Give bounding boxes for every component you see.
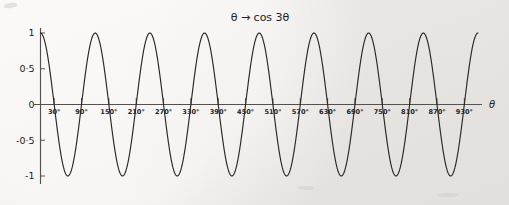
y-tick-label: -1 — [25, 170, 34, 181]
x-axis-name-label: θ — [489, 99, 495, 110]
y-axis-tick-labels: 10·50-0·5-1 — [16, 27, 35, 181]
chart-title: θ → cos 3θ — [231, 11, 290, 24]
chart-svg: θ → cos 3θ 30°90°150°210°270°330°390°450… — [0, 0, 509, 205]
y-tick-label: 0 — [28, 99, 34, 110]
y-tick-label: 1 — [28, 27, 34, 38]
figure-cos-3theta: θ → cos 3θ 30°90°150°210°270°330°390°450… — [0, 0, 509, 205]
x-axis-ticks — [54, 98, 464, 105]
y-tick-label: 0·5 — [19, 63, 34, 74]
y-tick-label: -0·5 — [16, 135, 35, 146]
